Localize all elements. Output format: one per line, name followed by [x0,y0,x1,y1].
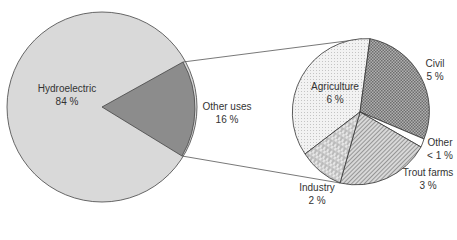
secondary-pie [292,39,429,185]
label-agriculture: Agriculture 6 % [305,80,365,106]
label-civil: Civil 5 % [420,57,450,83]
label-other: Other < 1 % [424,136,456,162]
label-hydroelectric: Hydroelectric 84 % [34,82,100,108]
label-trout-farms: Trout farms 3 % [398,166,457,192]
label-industry: Industry 2 % [295,181,339,207]
label-other-uses: Other uses 16 % [197,100,257,126]
